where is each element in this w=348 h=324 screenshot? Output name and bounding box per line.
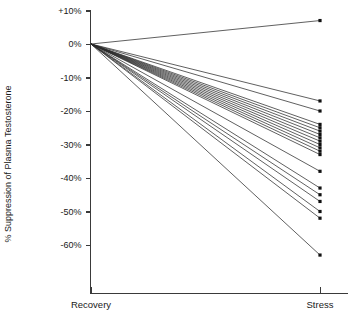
- data-point-marker: [318, 99, 321, 102]
- data-point-marker: [318, 200, 321, 203]
- data-point-marker: [318, 210, 321, 213]
- data-point-marker: [318, 253, 321, 256]
- y-tick-label: 0%: [68, 39, 81, 49]
- y-axis-ticks: +10%0%-10%-20%-30%-40%-50%-60%: [58, 6, 90, 251]
- data-point-marker: [318, 150, 321, 153]
- series-line: [91, 44, 320, 134]
- y-axis-title-text: % Suppression of Plasma Testosterone: [3, 86, 13, 243]
- data-point-marker: [318, 109, 321, 112]
- series-line: [91, 44, 320, 111]
- data-point-marker: [318, 143, 321, 146]
- y-tick-label: -60%: [60, 240, 81, 250]
- points-layer: [318, 19, 321, 257]
- data-point-marker: [318, 133, 321, 136]
- data-point-marker: [318, 146, 321, 149]
- y-tick-label: -40%: [60, 173, 81, 183]
- series-line: [91, 44, 320, 145]
- series-line: [91, 21, 320, 44]
- series-layer: [91, 21, 320, 256]
- data-point-marker: [318, 123, 321, 126]
- series-line: [91, 44, 320, 255]
- x-tick-label: Stress: [307, 299, 334, 310]
- data-point-marker: [318, 136, 321, 139]
- series-line: [91, 44, 320, 148]
- chart-canvas: % Suppression of Plasma Testosterone +10…: [0, 0, 348, 324]
- data-point-marker: [318, 19, 321, 22]
- y-tick-label: -10%: [60, 73, 81, 83]
- series-line: [91, 44, 320, 151]
- data-point-marker: [318, 186, 321, 189]
- series-line: [91, 44, 320, 128]
- series-line: [91, 44, 320, 201]
- data-point-marker: [318, 170, 321, 173]
- y-tick-label: -20%: [60, 106, 81, 116]
- series-line: [91, 44, 320, 212]
- series-line: [91, 44, 320, 155]
- data-point-marker: [318, 140, 321, 143]
- slope-chart: % Suppression of Plasma Testosterone +10…: [0, 0, 348, 324]
- data-point-marker: [318, 126, 321, 129]
- y-tick-label: -50%: [60, 207, 81, 217]
- series-line: [91, 44, 320, 131]
- y-axis-title: % Suppression of Plasma Testosterone: [3, 86, 13, 243]
- series-line: [91, 44, 320, 138]
- series-line: [91, 44, 320, 124]
- series-line: [91, 44, 320, 218]
- data-point-marker: [318, 153, 321, 156]
- series-line: [91, 44, 320, 195]
- y-tick-label: +10%: [58, 6, 81, 16]
- series-line: [91, 44, 320, 188]
- x-axis-ticks: RecoveryStress: [71, 287, 334, 310]
- x-tick-label: Recovery: [71, 299, 111, 310]
- data-point-marker: [318, 193, 321, 196]
- series-line: [91, 44, 320, 171]
- y-tick-label: -30%: [60, 140, 81, 150]
- data-point-marker: [318, 130, 321, 133]
- data-point-marker: [318, 217, 321, 220]
